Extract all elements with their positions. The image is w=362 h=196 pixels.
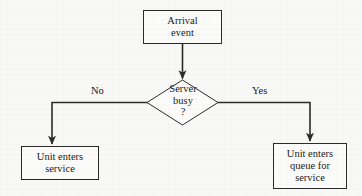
node-unit-enters-service[interactable]: Unit enters service (21, 146, 99, 180)
node-arrival-event[interactable]: Arrival event (143, 10, 222, 44)
edge-label-yes: Yes (252, 85, 267, 96)
edge-label-no: No (91, 85, 104, 96)
node-unit-enters-queue-label: Unit enters queue for service (284, 148, 336, 183)
edge-decision-to-queue (218, 103, 310, 142)
node-unit-enters-queue[interactable]: Unit enters queue for service (273, 143, 347, 189)
edge-decision-to-service (52, 103, 147, 145)
decision-diamond (147, 80, 218, 125)
node-unit-enters-service-label: Unit enters service (34, 151, 86, 175)
node-arrival-event-label: Arrival event (164, 15, 200, 39)
flowchart-canvas: Arrival event Server busy ? No Yes Unit … (0, 0, 362, 196)
